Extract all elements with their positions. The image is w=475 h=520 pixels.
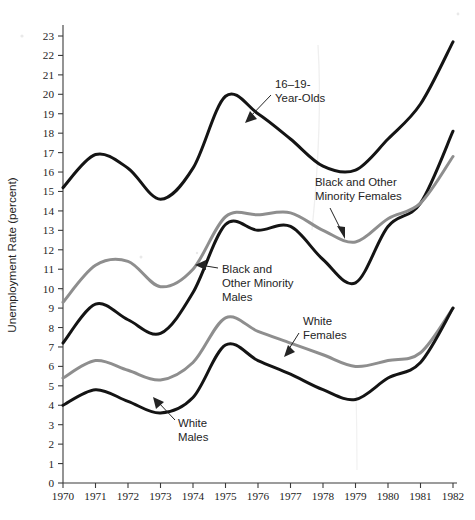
annotation-white-males-line-1: White (178, 417, 207, 429)
y-tick-label: 3 (48, 419, 54, 431)
x-tick-label: 1979 (344, 490, 367, 502)
annotation-minority-males-line-3: Males (222, 291, 253, 303)
y-tick-label: 16 (43, 166, 55, 178)
y-axis-ticks: 01234567891011121314151617181920212223 (43, 30, 63, 489)
x-tick-label: 1974 (182, 490, 205, 502)
y-tick-label: 23 (43, 30, 55, 42)
y-tick-label: 11 (43, 263, 54, 275)
x-tick-label: 1976 (247, 490, 270, 502)
y-tick-label: 8 (48, 322, 54, 334)
x-tick-label: 1975 (214, 490, 237, 502)
chart-canvas: 01234567891011121314151617181920212223 1… (0, 0, 475, 520)
y-tick-label: 12 (43, 244, 54, 256)
y-tick-label: 17 (43, 147, 55, 159)
y-tick-label: 13 (43, 224, 55, 236)
annotation-white-males: White Males (153, 397, 209, 443)
y-tick-label: 15 (43, 185, 55, 197)
annotation-white-males-line-2: Males (178, 431, 209, 443)
x-tick-label: 1971 (84, 490, 106, 502)
x-tick-label: 1978 (312, 490, 335, 502)
annotation-minority-males-line-1: Black and (222, 263, 272, 275)
annotation-teen: 16–19- Year-Olds (245, 78, 326, 123)
y-tick-label: 6 (48, 360, 54, 372)
annotation-white-females-line-1: White (303, 315, 332, 327)
y-tick-label: 2 (48, 438, 54, 450)
y-tick-label: 9 (48, 302, 54, 314)
y-tick-label: 19 (43, 108, 55, 120)
paper-texture (20, 13, 459, 470)
series-lines (63, 42, 453, 413)
y-tick-label: 0 (48, 477, 54, 489)
y-tick-label: 10 (43, 283, 55, 295)
x-axis-ticks: 1970197119721973197419751976197719781979… (52, 483, 464, 502)
y-tick-label: 22 (43, 49, 54, 61)
x-tick-label: 1972 (117, 490, 139, 502)
y-tick-label: 20 (43, 88, 55, 100)
y-tick-label: 21 (43, 69, 54, 81)
unemployment-rate-chart: 01234567891011121314151617181920212223 1… (0, 0, 475, 520)
y-tick-label: 7 (48, 341, 54, 353)
x-tick-label: 1977 (279, 490, 302, 502)
x-tick-label: 1982 (442, 490, 464, 502)
x-tick-label: 1970 (52, 490, 75, 502)
x-tick-label: 1980 (377, 490, 400, 502)
y-axis-title: Unemployment Rate (percent) (5, 177, 18, 332)
y-tick-label: 1 (48, 458, 54, 470)
annotation-teen-line-2: Year-Olds (275, 92, 326, 104)
x-tick-label: 1981 (409, 490, 431, 502)
annotation-teen-line-1: 16–19- (275, 78, 311, 90)
x-tick-label: 1973 (149, 490, 172, 502)
y-tick-label: 14 (43, 205, 55, 217)
series-line-white-females (63, 308, 453, 380)
annotation-minority-females-line-1: Black and Other (315, 176, 397, 188)
annotation-minority-males: Black and Other Minority Males (195, 260, 294, 303)
y-tick-label: 5 (48, 380, 54, 392)
y-tick-label: 18 (43, 127, 55, 139)
y-tick-label: 4 (48, 399, 54, 411)
annotation-minority-females: Black and Other Minority Females (315, 176, 402, 239)
annotation-white-females-line-2: Females (303, 329, 347, 341)
annotation-minority-females-line-2: Minority Females (315, 190, 402, 202)
annotation-minority-males-line-2: Other Minority (222, 277, 294, 289)
